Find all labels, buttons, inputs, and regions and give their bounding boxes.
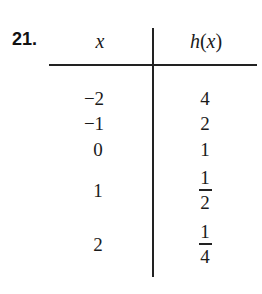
table-row-x: 0 bbox=[68, 139, 128, 161]
table-header-hx: h(x) bbox=[180, 30, 232, 53]
table-row-x: 2 bbox=[68, 234, 128, 256]
hx-close-paren: ) bbox=[215, 30, 222, 52]
table-horizontal-divider bbox=[49, 64, 257, 66]
fraction-bar bbox=[199, 243, 212, 245]
table-header-x: x bbox=[88, 30, 112, 53]
table-row-x: 1 bbox=[68, 180, 128, 202]
problem-number: 21. bbox=[12, 29, 37, 50]
fraction-numerator: 1 bbox=[200, 168, 210, 188]
table-row-hx: 1 bbox=[175, 139, 235, 161]
table-row-hx: 2 bbox=[175, 113, 235, 135]
table-row-hx: 4 bbox=[175, 88, 235, 110]
fraction-bar bbox=[199, 189, 212, 191]
table-row-hx-fraction: 1 4 bbox=[185, 222, 225, 267]
table-row-x: −2 bbox=[64, 88, 124, 110]
table-row-hx-fraction: 1 2 bbox=[185, 168, 225, 213]
fraction-denominator: 2 bbox=[200, 193, 210, 213]
hx-open-paren: ( bbox=[200, 30, 207, 52]
hx-func: h bbox=[190, 30, 200, 52]
fraction-denominator: 4 bbox=[200, 247, 210, 267]
table-row-x: −1 bbox=[64, 113, 124, 135]
fraction-numerator: 1 bbox=[200, 222, 210, 242]
